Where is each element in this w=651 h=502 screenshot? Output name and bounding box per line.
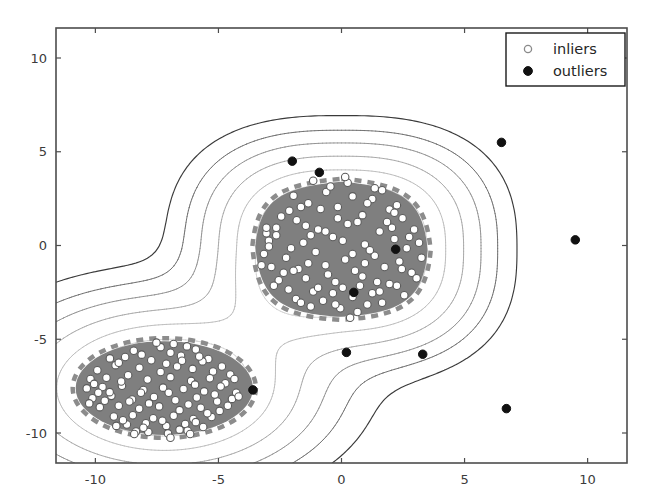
inlier-point xyxy=(399,215,407,223)
inlier-point xyxy=(314,226,322,234)
inlier-point xyxy=(324,271,332,279)
inlier-point xyxy=(95,389,103,397)
inlier-point xyxy=(167,373,175,381)
inlier-point xyxy=(96,403,104,411)
inlier-point xyxy=(165,389,173,397)
x-tick-label: 5 xyxy=(460,472,468,487)
inlier-point xyxy=(131,430,139,438)
legend-inliers-label: inliers xyxy=(553,41,597,57)
inlier-point xyxy=(204,410,212,418)
inlier-point xyxy=(332,301,340,309)
inlier-point xyxy=(167,434,175,442)
inlier-point xyxy=(270,282,278,290)
inlier-point xyxy=(231,375,239,383)
inlier-point xyxy=(405,233,413,241)
inlier-point xyxy=(106,355,114,363)
inlier-point xyxy=(307,231,315,239)
inlier-point xyxy=(163,360,171,368)
outlier-point xyxy=(249,386,258,395)
outlier-point xyxy=(350,288,359,297)
inlier-point xyxy=(136,364,144,372)
inlier-point xyxy=(90,380,98,388)
inlier-point xyxy=(180,385,188,393)
inlier-point xyxy=(341,173,349,181)
inlier-point xyxy=(172,396,180,404)
inlier-point xyxy=(135,405,143,413)
inlier-point xyxy=(153,339,161,347)
inlier-point xyxy=(415,239,423,247)
x-tick-label: 10 xyxy=(579,472,596,487)
inlier-point xyxy=(286,207,294,215)
inlier-point xyxy=(373,278,381,286)
inlier-point xyxy=(273,224,281,232)
inlier-point xyxy=(361,260,369,268)
outlier-point xyxy=(391,245,400,254)
inlier-point xyxy=(314,284,322,292)
inlier-point xyxy=(94,366,102,374)
inlier-point xyxy=(297,299,305,307)
inlier-point xyxy=(148,357,156,365)
inlier-point xyxy=(206,375,214,383)
inlier-point xyxy=(130,347,138,355)
inlier-point xyxy=(317,205,325,213)
inlier-point xyxy=(137,389,145,397)
inlier-point xyxy=(305,200,313,208)
inlier-point xyxy=(327,183,335,191)
inlier-point xyxy=(113,422,121,430)
inlier-point xyxy=(110,413,118,421)
legend[interactable]: inliers outliers xyxy=(506,33,625,86)
inlier-point xyxy=(349,250,357,258)
outlier-point xyxy=(342,348,351,357)
inlier-point xyxy=(378,299,386,307)
x-tick-label: -5 xyxy=(212,472,225,487)
inlier-point xyxy=(115,359,123,367)
inlier-point xyxy=(263,224,271,232)
inlier-point xyxy=(200,388,208,396)
inlier-point xyxy=(418,254,426,262)
inlier-point xyxy=(213,398,221,406)
inlier-point xyxy=(115,402,123,410)
y-tick-label: -10 xyxy=(26,426,47,441)
inlier-point xyxy=(197,404,205,412)
inlier-point xyxy=(346,314,354,322)
inlier-point xyxy=(376,288,384,296)
inlier-point xyxy=(396,258,404,266)
y-tick-label: -5 xyxy=(34,332,47,347)
inlier-point xyxy=(307,303,315,311)
inlier-point xyxy=(381,263,389,271)
inlier-point xyxy=(309,177,317,185)
inlier-point xyxy=(224,402,232,410)
inlier-point xyxy=(117,378,125,386)
inlier-point xyxy=(273,231,281,239)
outlier-point xyxy=(288,157,297,166)
inlier-point xyxy=(356,282,364,290)
inlier-point xyxy=(176,406,184,414)
inlier-point xyxy=(85,400,93,408)
inlier-point xyxy=(159,417,167,425)
inlier-point xyxy=(192,346,200,354)
figure-container: -10-50510 1050-5-10 inliers outliers xyxy=(0,0,651,502)
inlier-point xyxy=(376,228,384,236)
inlier-point xyxy=(366,246,374,254)
legend-outliers-marker-icon xyxy=(524,67,533,76)
inlier-point xyxy=(191,381,199,389)
inlier-point xyxy=(199,423,207,431)
inlier-point xyxy=(359,273,367,281)
inlier-point xyxy=(216,407,224,415)
inlier-point xyxy=(386,280,394,288)
inlier-point xyxy=(124,372,132,380)
inlier-point xyxy=(176,426,184,434)
inlier-point xyxy=(329,290,337,298)
inlier-point xyxy=(268,263,276,271)
scatter-contour-plot: -10-50510 1050-5-10 inliers outliers xyxy=(0,0,651,502)
inlier-point xyxy=(403,245,411,253)
inlier-point xyxy=(398,265,406,273)
inlier-point xyxy=(413,275,421,283)
inlier-point xyxy=(129,411,137,419)
inlier-point xyxy=(170,412,178,420)
inlier-point xyxy=(150,393,158,401)
inlier-point xyxy=(287,245,295,253)
inlier-point xyxy=(258,261,266,269)
inlier-point xyxy=(103,374,111,382)
inlier-point xyxy=(140,424,148,432)
